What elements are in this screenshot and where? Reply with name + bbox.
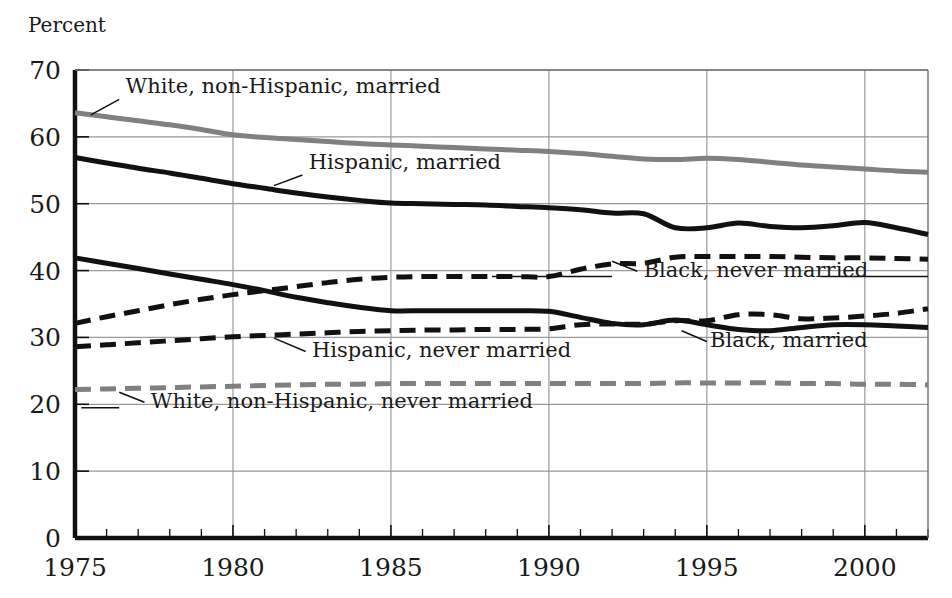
y-tick-label: 40 [29, 257, 61, 286]
line-chart: 010203040506070 197519801985199019952000… [0, 0, 952, 598]
chart-figure: 010203040506070 197519801985199019952000… [0, 0, 952, 598]
y-tick-label: 60 [29, 123, 61, 152]
x-tick-label: 1995 [675, 553, 739, 582]
y-tick-label: 10 [29, 457, 61, 486]
x-tick-label: 1990 [517, 553, 581, 582]
y-tick-label: 30 [29, 323, 61, 352]
series-label: White, non-Hispanic, married [126, 74, 441, 98]
series-label: Black, married [710, 328, 868, 352]
x-tick-label: 1985 [359, 553, 423, 582]
y-tick-label: 20 [29, 390, 61, 419]
y-tick-label: 0 [45, 524, 61, 553]
series-label: Black, never married [644, 258, 869, 282]
x-tick-label: 1980 [201, 553, 265, 582]
y-axis-title: Percent [28, 13, 106, 37]
x-tick-label: 1975 [43, 553, 107, 582]
series-label: White, non-Hispanic, never married [151, 389, 533, 413]
series-label: Hispanic, never married [312, 338, 571, 362]
x-tick-label: 2000 [833, 553, 897, 582]
y-tick-label: 70 [29, 56, 61, 85]
series-label: Hispanic, married [309, 150, 501, 174]
y-tick-label: 50 [29, 190, 61, 219]
